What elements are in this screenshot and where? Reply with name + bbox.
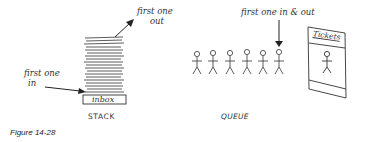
- stack-bottom-annotation-line1: first one: [24, 69, 60, 78]
- queue-label: QUEUE: [221, 112, 249, 121]
- queue-people: [192, 49, 284, 74]
- stack-label: STACK: [88, 112, 115, 121]
- person-icon: [242, 49, 252, 74]
- paper-stack-icon: [84, 37, 124, 92]
- stack-bottom-annotation-line2: in: [28, 79, 36, 88]
- stack-top-annotation-line2: out: [150, 17, 164, 26]
- inbox-tray-label: inbox: [92, 95, 114, 104]
- person-icon: [208, 50, 218, 74]
- arrow-down-icon: [275, 20, 283, 47]
- person-icon: [274, 49, 284, 74]
- arrow-in-icon: [45, 87, 86, 94]
- person-icon: [258, 50, 268, 74]
- stack-top-annotation-line1: first one: [137, 7, 173, 16]
- person-icon: [225, 50, 235, 74]
- arrow-out-icon: [115, 19, 134, 37]
- person-icon: [192, 51, 202, 74]
- queue-annotation: first one in & out: [241, 8, 315, 17]
- figure-caption: Figure 14-28: [10, 128, 55, 137]
